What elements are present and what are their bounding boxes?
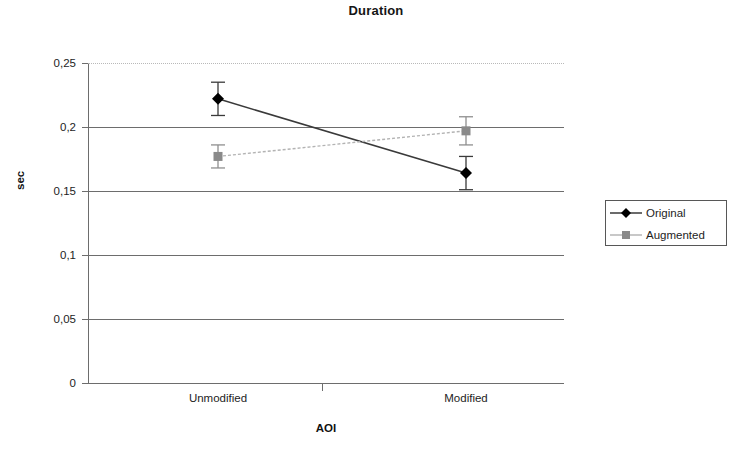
x-axis-center-tick bbox=[322, 384, 323, 391]
series-line-augmented bbox=[218, 131, 466, 157]
legend-item-original[interactable]: Original bbox=[606, 201, 728, 224]
data-point-augmented-unmodified[interactable] bbox=[214, 152, 223, 161]
legend-label-augmented: Augmented bbox=[646, 229, 705, 241]
legend: Original Augmented bbox=[605, 200, 727, 246]
legend-marker-square-icon bbox=[606, 226, 646, 244]
series-original bbox=[211, 82, 473, 190]
series-augmented bbox=[211, 117, 473, 168]
x-tick-label-unmodified: Unmodified bbox=[138, 392, 298, 404]
data-point-augmented-modified[interactable] bbox=[462, 126, 471, 135]
legend-marker-diamond-icon bbox=[606, 204, 646, 222]
legend-item-augmented[interactable]: Augmented bbox=[606, 223, 728, 246]
x-tick-label-modified: Modified bbox=[386, 392, 546, 404]
series-line-original bbox=[218, 99, 466, 173]
chart-container: Duration 0,25 0,2 0,15 0,1 0,05 0 sec bbox=[0, 0, 752, 455]
legend-label-original: Original bbox=[646, 207, 686, 219]
data-point-original-unmodified[interactable] bbox=[212, 93, 224, 105]
data-point-original-modified[interactable] bbox=[460, 167, 472, 179]
x-axis-title: AOI bbox=[88, 422, 564, 434]
